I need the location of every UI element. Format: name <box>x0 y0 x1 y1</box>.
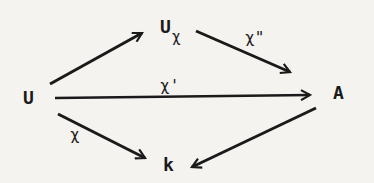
edge-label-chi-prime: χ' <box>160 78 179 94</box>
arrow-u-to-uchi <box>50 33 142 84</box>
arrows-layer <box>0 0 374 183</box>
arrow-a-to-k <box>192 108 316 167</box>
arrow-u-to-a <box>55 95 310 98</box>
commutative-diagram: U Uχ A k χ" χ' χ <box>0 0 374 183</box>
node-u-chi: Uχ <box>160 18 180 36</box>
node-k-label: k <box>163 154 174 175</box>
node-u-label: U <box>23 87 34 108</box>
node-u-chi-subscript: χ <box>172 28 181 46</box>
node-u: U <box>23 89 34 107</box>
arrow-uchi-to-a <box>196 31 290 72</box>
node-a-label: A <box>333 82 344 103</box>
edge-label-chi-double-prime: χ" <box>245 30 264 46</box>
node-u-chi-label: U <box>160 16 171 37</box>
node-a: A <box>333 84 344 102</box>
edge-label-chi: χ <box>70 127 80 143</box>
node-k: k <box>163 156 174 174</box>
